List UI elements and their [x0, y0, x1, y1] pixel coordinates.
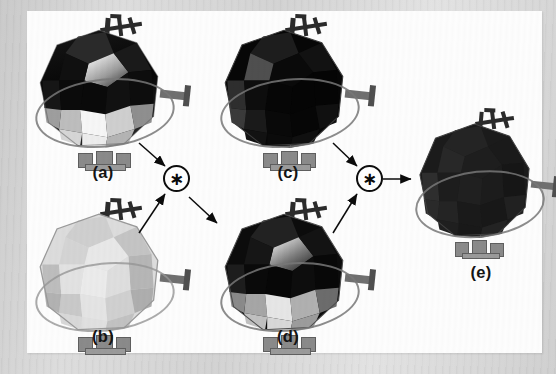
panel-label-e: (e)	[451, 263, 511, 282]
figure-root: (a)	[0, 0, 556, 374]
convolution-asterisk-icon: ∗	[165, 169, 188, 187]
panel-label-b: (b)	[73, 327, 133, 346]
panel-label-d: (d)	[258, 327, 318, 346]
arrow-op1-to-d	[189, 197, 217, 223]
panel-label-c: (c)	[258, 163, 318, 182]
panel-a-object	[35, 17, 175, 167]
thruster-cluster-icon	[454, 239, 509, 262]
convolution-asterisk-icon: ∗	[358, 169, 381, 187]
convolution-operator-2[interactable]: ∗	[356, 165, 383, 192]
panel-c-object	[220, 17, 360, 167]
figure-white-plate: (a)	[27, 11, 542, 353]
panel-e-object	[415, 111, 545, 256]
panel-label-a: (a)	[73, 163, 133, 182]
convolution-operator-1[interactable]: ∗	[163, 165, 190, 192]
